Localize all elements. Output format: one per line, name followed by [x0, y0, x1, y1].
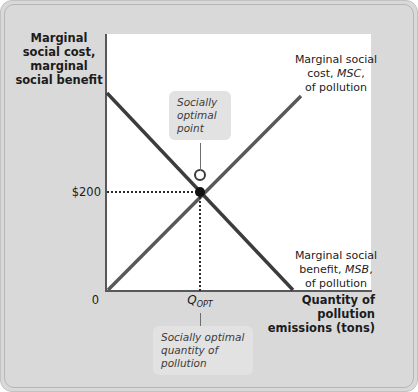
y-axis-tick-label-200: $200 — [49, 185, 101, 199]
msc-curve-label: Marginal social cost, MSC, of pollution — [286, 53, 386, 95]
qopt-main: Q — [187, 293, 196, 307]
x-axis-title: Quantity of pollution emissions (tons) — [249, 293, 375, 335]
callout-socially-optimal-quantity: Socially optimal quantity of pollution — [153, 326, 253, 375]
msb-label-line1: Marginal social — [295, 249, 377, 262]
origin-label: 0 — [85, 293, 99, 307]
msb-abbrev: MSB — [345, 263, 369, 276]
quantity-guide-line — [199, 193, 201, 291]
qopt-subscript: OPT — [197, 300, 213, 309]
msc-label-line2c: , — [361, 67, 365, 80]
msb-curve-label: Marginal social benefit, MSB, of polluti… — [286, 249, 386, 291]
msc-label-line1: Marginal social — [295, 53, 377, 66]
callout-leader-quantity — [200, 313, 201, 327]
msb-label-line3: of pollution — [305, 277, 367, 290]
x-axis-tick-label-qopt: QOPT — [177, 293, 223, 309]
msb-label-line2a: benefit, — [299, 263, 345, 276]
economics-figure: Socially optimal point Socially optimal … — [0, 0, 418, 392]
y-axis-title: Marginal social cost, marginal social be… — [13, 31, 105, 87]
msb-label-line2c: , — [369, 263, 373, 276]
y-axis-line — [105, 34, 107, 292]
equilibrium-point-marker — [195, 187, 205, 197]
msc-label-line3: of pollution — [305, 81, 367, 94]
callout-socially-optimal-point: Socially optimal point — [169, 91, 231, 140]
msc-abbrev: MSC — [337, 67, 361, 80]
callout-leader-point — [200, 143, 201, 171]
msc-label-line2a: cost, — [307, 67, 337, 80]
price-guide-line — [107, 191, 201, 193]
